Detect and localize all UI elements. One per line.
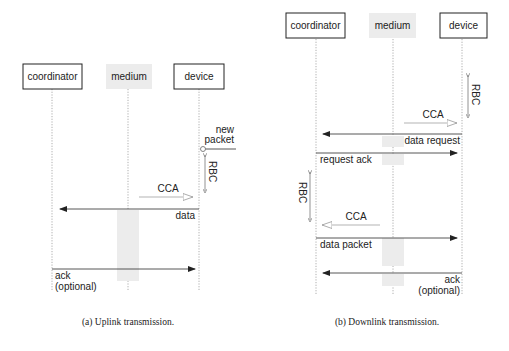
coordinator-actor: coordinator	[23, 64, 82, 89]
downlink-caption: (b) Downlink transmission.	[335, 317, 439, 328]
medium-label: medium	[111, 71, 147, 82]
medium-busy-block	[117, 210, 139, 281]
svg-text:request ack: request ack	[320, 154, 373, 165]
rbc-backoff-device: RBC	[205, 155, 218, 191]
medium-busy-block	[382, 136, 404, 147]
medium-busy-block	[382, 154, 404, 165]
cca-arrow: CCA	[139, 183, 193, 197]
medium-actor: medium	[106, 64, 152, 89]
medium-busy-block	[382, 238, 404, 266]
svg-text:(optional): (optional)	[55, 281, 97, 292]
svg-text:ack: ack	[55, 270, 72, 281]
uplink-caption: (a) Uplink transmission.	[82, 317, 174, 328]
svg-text:RBC: RBC	[207, 161, 218, 182]
medium-actor: medium	[369, 13, 416, 38]
cca-arrow-device: CCA	[404, 109, 457, 123]
device-label: device	[449, 20, 478, 31]
svg-text:ack: ack	[444, 274, 461, 285]
cca-arrow-coordinator: CCA	[322, 211, 380, 225]
svg-text:packet: packet	[205, 134, 235, 145]
svg-text:RBC: RBC	[297, 182, 308, 203]
coordinator-actor: coordinator	[286, 13, 345, 38]
svg-text:CCA: CCA	[157, 183, 178, 194]
new-packet-event: new packet	[201, 124, 237, 152]
device-actor: device	[174, 64, 224, 89]
rbc-backoff-device: RBC	[468, 75, 481, 116]
svg-text:data: data	[176, 210, 196, 221]
medium-label: medium	[375, 20, 411, 31]
device-actor: device	[440, 13, 487, 38]
medium-busy-block	[382, 274, 404, 286]
coordinator-label: coordinator	[290, 20, 341, 31]
svg-text:RBC: RBC	[470, 84, 481, 105]
rbc-backoff-coordinator: RBC	[297, 172, 310, 220]
svg-text:(optional): (optional)	[418, 285, 460, 296]
svg-text:data packet: data packet	[320, 239, 372, 250]
event-circle-icon	[201, 147, 206, 152]
coordinator-label: coordinator	[27, 71, 78, 82]
downlink-panel: coordinator medium device RBC CCA data r…	[286, 13, 487, 328]
svg-text:CCA: CCA	[345, 211, 366, 222]
sequence-diagram-figure: coordinator medium device new packet RBC…	[0, 0, 509, 351]
uplink-panel: coordinator medium device new packet RBC…	[23, 64, 236, 328]
svg-text:CCA: CCA	[422, 109, 443, 120]
device-label: device	[185, 71, 214, 82]
svg-text:data request: data request	[404, 135, 460, 146]
